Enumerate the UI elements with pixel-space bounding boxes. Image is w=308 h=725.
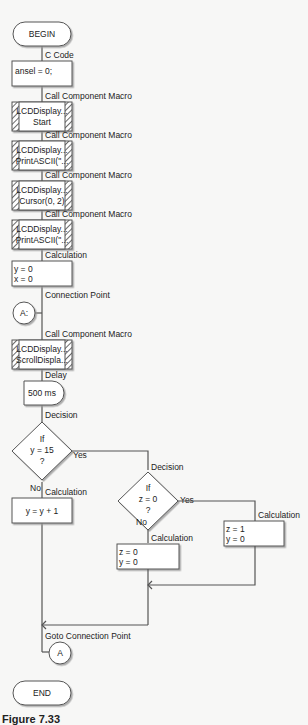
c-code-block[interactable]: ansel = 0; (12, 61, 72, 86)
decision-1-no-label: No (30, 483, 41, 493)
decision-z-equals-0[interactable]: If z = 0 ? (118, 472, 178, 530)
svg-text:z = 0: z = 0 (139, 494, 158, 504)
end-terminator[interactable]: END (13, 681, 71, 705)
svg-text:500 ms: 500 ms (28, 388, 56, 398)
svg-text:Start: Start (33, 117, 52, 127)
decision-y-equals-15[interactable]: If y = 15 ? (12, 422, 72, 480)
svg-text:y = 0: y = 0 (119, 557, 138, 567)
svg-text:x = 0: x = 0 (14, 274, 33, 284)
connection-point-a[interactable]: A: (13, 302, 35, 324)
step-label-decision-2: Decision (151, 462, 184, 472)
macro-block-print-2[interactable]: LCDDisplay... PrintASCII("... (12, 220, 72, 249)
svg-text:ansel = 0;: ansel = 0; (15, 66, 52, 76)
macro-block-cursor[interactable]: LCDDisplay... Cursor(0, 2) (12, 181, 72, 210)
step-label-decision-1: Decision (45, 410, 78, 420)
svg-text:z = 0: z = 0 (119, 547, 138, 557)
step-label-connection-point: Connection Point (45, 290, 110, 300)
svg-text:y = 0: y = 0 (226, 534, 245, 544)
svg-text:ScrollDispla...: ScrollDispla... (16, 355, 68, 365)
step-label-calculation-no: Calculation (151, 533, 193, 543)
step-label-calculation-2: Calculation (45, 487, 87, 497)
svg-text:Cursor(0, 2): Cursor(0, 2) (19, 196, 65, 206)
step-label-delay: Delay (45, 370, 67, 380)
decision-2-yes-label: Yes (180, 495, 194, 505)
svg-text:END: END (33, 688, 51, 698)
goto-connection-point-a[interactable]: A (49, 642, 71, 664)
decision-2-no-label: No (136, 517, 147, 527)
step-label-c-code: C Code (45, 50, 74, 60)
macro-block-start[interactable]: LCDDisplay... Start (12, 102, 72, 131)
svg-text:y = 0: y = 0 (14, 264, 33, 274)
calculation-block-z1-y0[interactable]: z = 1 y = 0 (224, 521, 284, 546)
svg-text:PrintASCII("...: PrintASCII("... (16, 156, 69, 166)
begin-terminator[interactable]: BEGIN (13, 22, 71, 46)
svg-text:BEGIN: BEGIN (29, 29, 55, 39)
svg-text:LCDDisplay...: LCDDisplay... (16, 185, 67, 195)
svg-text:LCDDisplay...: LCDDisplay... (16, 344, 67, 354)
svg-text:LCDDisplay...: LCDDisplay... (16, 145, 67, 155)
step-label-macro-5: Call Component Macro (45, 329, 132, 339)
svg-text:LCDDisplay...: LCDDisplay... (16, 224, 67, 234)
step-label-calculation-yes: Calculation (258, 510, 300, 520)
svg-text:A: A (57, 648, 63, 658)
svg-text:LCDDisplay...: LCDDisplay... (16, 106, 67, 116)
svg-text:If: If (40, 434, 45, 444)
svg-text:?: ? (146, 505, 151, 515)
svg-text:y = 15: y = 15 (30, 445, 54, 455)
step-label-macro-2: Call Component Macro (45, 130, 132, 140)
calculation-block-z0-y0[interactable]: z = 0 y = 0 (117, 544, 179, 569)
step-label-calculation-1: Calculation (45, 250, 87, 260)
step-label-goto: Goto Connection Point (45, 631, 131, 641)
step-label-macro-4: Call Component Macro (45, 209, 132, 219)
calculation-block-increment[interactable]: y = y + 1 (12, 498, 72, 523)
macro-block-scroll[interactable]: LCDDisplay... ScrollDispla... (12, 340, 72, 369)
calculation-block-init[interactable]: y = 0 x = 0 (12, 261, 72, 286)
step-label-macro-1: Call Component Macro (45, 91, 132, 101)
macro-block-print-1[interactable]: LCDDisplay... PrintASCII("... (12, 141, 72, 170)
svg-text:PrintASCII("...: PrintASCII("... (16, 235, 69, 245)
svg-text:z = 1: z = 1 (226, 524, 245, 534)
svg-text:A:: A: (20, 308, 28, 318)
svg-text:?: ? (40, 456, 45, 466)
figure-caption: Figure 7.33 (2, 713, 60, 725)
svg-text:y = y + 1: y = y + 1 (26, 506, 59, 516)
delay-block[interactable]: 500 ms (24, 381, 64, 405)
svg-text:If: If (146, 483, 151, 493)
step-label-macro-3: Call Component Macro (45, 170, 132, 180)
